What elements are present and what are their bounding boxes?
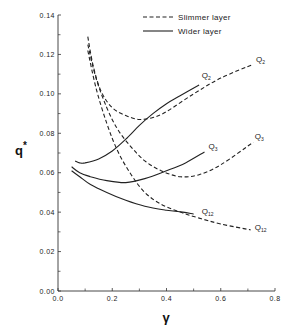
y-tick-label: 0.14 [39,12,55,19]
legend: Slimmer layerWider layer [143,13,231,36]
curve-label: Q2 [202,71,211,81]
curve-label: Q12 [255,223,267,233]
wider-q3-curve [72,152,205,183]
x-tick-label: 0.0 [52,295,63,302]
y-tick-label: 0.12 [39,51,55,58]
q-star-vs-gamma-chart: 0.000.020.040.060.080.100.120.140.00.20.… [0,0,296,333]
x-tick-label: 0.8 [269,295,280,302]
y-tick-label: 0.02 [39,248,55,255]
curve-label: Q3 [209,142,218,152]
axes: 0.000.020.040.060.080.100.120.140.00.20.… [39,12,280,303]
y-tick-label: 0.04 [39,209,55,216]
wider-q2-curve [75,85,199,163]
y-axis-label: q* [15,140,27,158]
wider-q12-curve [72,171,194,214]
slimmer-q3-curve [88,45,254,177]
y-tick-label: 0.06 [39,169,55,176]
curve-label: Q2 [256,55,265,65]
x-tick-label: 0.4 [161,295,172,302]
curve-label: Q12 [202,207,214,217]
slimmer-q12-curve [88,51,251,230]
curves [72,37,254,230]
legend-label: Wider layer [178,27,222,36]
x-tick-label: 0.2 [107,295,118,302]
y-tick-label: 0.00 [39,288,55,295]
slimmer-q2-curve [88,37,254,120]
y-axis-label-main: q [15,143,23,158]
x-tick-label: 0.6 [215,295,226,302]
y-tick-label: 0.10 [39,90,55,97]
y-axis-label-superscript: * [23,140,27,151]
y-tick-label: 0.08 [39,130,55,137]
x-axis-label: γ [162,310,170,325]
curve-label: Q3 [255,132,264,142]
curve-labels: Q2Q2Q3Q3Q12Q12 [202,55,267,233]
legend-label: Slimmer layer [178,13,231,22]
